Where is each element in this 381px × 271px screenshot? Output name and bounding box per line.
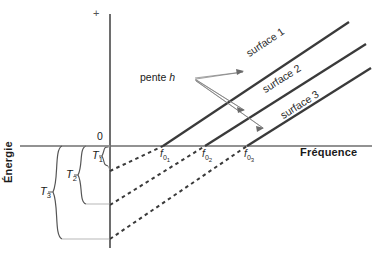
work-function-t1-symbol: T	[92, 149, 99, 161]
work-function-t3-symbol: T	[40, 185, 47, 197]
origin-label: 0	[97, 131, 103, 142]
pente-leader-lines	[195, 72, 263, 128]
threshold-f03-index: 3	[251, 157, 254, 163]
threshold-f02-label: f02	[202, 148, 212, 163]
work-function-t1-label: T1	[92, 150, 103, 164]
surface-2-dashed	[110, 146, 205, 205]
work-function-t2-symbol: T	[66, 168, 73, 180]
photoelectric-effect-figure: + Énergie Fréquence 0 pente h surface 1 …	[0, 0, 381, 271]
positive-sign-label: +	[93, 8, 99, 19]
slope-annotation-symbol: h	[169, 71, 175, 83]
threshold-f03-label: f03	[244, 148, 254, 163]
threshold-f02-index: 2	[209, 157, 212, 163]
surface-2-line	[205, 44, 366, 146]
threshold-f01-index: 1	[167, 157, 170, 163]
work-function-t3-sub: 3	[47, 191, 51, 200]
figure-canvas	[0, 0, 381, 271]
work-function-t3-label: T3	[40, 186, 51, 200]
slope-annotation-prefix: pente	[140, 71, 166, 83]
work-function-t1-sub: 1	[99, 155, 103, 164]
slope-annotation: pente h	[140, 72, 175, 83]
work-function-t2-label: T2	[66, 169, 77, 183]
work-function-t2-sub: 2	[73, 174, 77, 183]
threshold-f01-label: f01	[160, 148, 170, 163]
y-axis-title: Énergie	[3, 141, 14, 183]
surface-1-dashed	[110, 146, 163, 171]
x-axis-title: Fréquence	[300, 147, 357, 158]
